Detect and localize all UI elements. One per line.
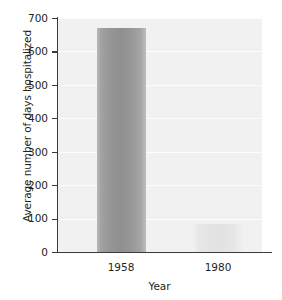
y-tick-mark bbox=[52, 252, 57, 253]
y-tick-label-600: 600 bbox=[8, 46, 48, 57]
y-tick-label-0: 0 bbox=[8, 247, 48, 258]
y-tick-label-300: 300 bbox=[8, 147, 48, 158]
x-tick-label-1958: 1958 bbox=[81, 262, 161, 273]
x-axis-line bbox=[57, 252, 272, 253]
y-tick-mark bbox=[52, 118, 57, 119]
gridline bbox=[57, 18, 262, 19]
y-tick-mark bbox=[52, 219, 57, 220]
y-axis-line bbox=[57, 17, 58, 253]
gridline bbox=[57, 118, 262, 119]
gridline bbox=[57, 152, 262, 153]
y-tick-mark bbox=[52, 185, 57, 186]
plot-area bbox=[57, 18, 262, 252]
y-tick-label-500: 500 bbox=[8, 80, 48, 91]
bar-1980[interactable] bbox=[194, 224, 243, 252]
bar-chart-figure: Average number of days hospitalized 7006… bbox=[0, 0, 282, 300]
x-tick-label-1980: 1980 bbox=[178, 262, 258, 273]
y-tick-label-200: 200 bbox=[8, 180, 48, 191]
y-tick-mark bbox=[52, 18, 57, 19]
gridline bbox=[57, 85, 262, 86]
y-tick-label-400: 400 bbox=[8, 113, 48, 124]
x-axis-title: Year bbox=[57, 281, 262, 292]
gridline bbox=[57, 51, 262, 52]
gridline bbox=[57, 219, 262, 220]
y-tick-mark bbox=[52, 51, 57, 52]
y-tick-label-700: 700 bbox=[8, 13, 48, 24]
gridline bbox=[57, 185, 262, 186]
y-tick-mark bbox=[52, 152, 57, 153]
y-tick-mark bbox=[52, 85, 57, 86]
y-tick-label-100: 100 bbox=[8, 213, 48, 224]
bar-1958[interactable] bbox=[97, 28, 146, 252]
